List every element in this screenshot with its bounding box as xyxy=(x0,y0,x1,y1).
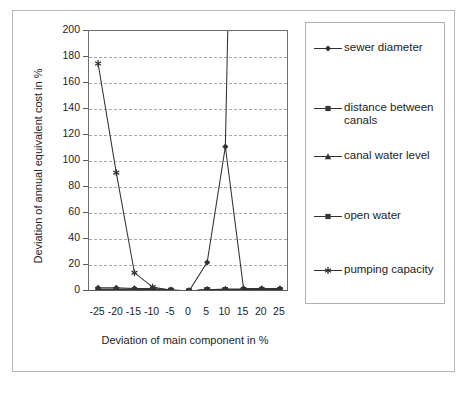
legend-marker xyxy=(314,210,342,224)
square-icon xyxy=(314,210,342,224)
x-axis-tick-label: 25 xyxy=(264,305,294,317)
y-axis-tick xyxy=(83,290,88,291)
y-axis-tick-label: 160 xyxy=(40,76,80,86)
diamond-marker xyxy=(204,259,210,265)
y-axis-tick xyxy=(83,134,88,135)
y-axis-tick-label: 20 xyxy=(40,258,80,268)
series-pumping-capacity xyxy=(95,60,283,290)
y-axis-tick xyxy=(83,238,88,239)
legend-label: canal water level xyxy=(342,149,430,162)
series-line xyxy=(98,147,280,290)
figure-container: Deviation of annual equivalent cost in %… xyxy=(0,0,467,401)
triangle-icon xyxy=(314,150,342,164)
chart-legend: sewer diameterdistance between canalscan… xyxy=(305,22,445,304)
diamond-icon xyxy=(314,42,342,56)
y-axis-tick-label: 0 xyxy=(40,284,80,294)
y-axis-tick xyxy=(83,212,88,213)
y-axis-tick-label: 100 xyxy=(40,154,80,164)
triangle-marker xyxy=(325,153,332,159)
y-axis-tick-label: 200 xyxy=(40,24,80,34)
x-axis-tick-labels: -25-20-15-10-50510152025 xyxy=(88,305,288,319)
legend-marker xyxy=(314,264,342,278)
y-axis-tick xyxy=(83,30,88,31)
y-axis-tick xyxy=(83,160,88,161)
legend-label: open water xyxy=(342,209,401,222)
x-axis-line xyxy=(88,290,288,291)
legend-label: sewer diameter xyxy=(342,41,423,54)
asterisk-icon xyxy=(314,264,342,278)
y-axis-tick-label: 80 xyxy=(40,180,80,190)
y-axis-tick-label: 60 xyxy=(40,206,80,216)
series-line xyxy=(98,64,280,291)
legend-label: pumping capacity xyxy=(342,263,434,276)
legend-item-distance-between-canals[interactable]: distance between canals xyxy=(314,101,442,127)
legend-item-pumping-capacity[interactable]: pumping capacity xyxy=(314,263,442,278)
square-marker xyxy=(325,214,330,219)
diamond-marker xyxy=(325,45,331,51)
diamond-marker xyxy=(222,144,228,150)
y-axis-tick xyxy=(83,186,88,187)
legend-marker xyxy=(314,150,342,164)
asterisk-marker xyxy=(325,267,331,274)
y-axis-tick xyxy=(83,82,88,83)
legend-item-canal-water-level[interactable]: canal water level xyxy=(314,149,442,164)
y-axis-tick xyxy=(83,264,88,265)
legend-item-open-water[interactable]: open water xyxy=(314,209,442,224)
asterisk-marker xyxy=(131,269,137,276)
series-layer xyxy=(89,31,288,290)
legend-marker xyxy=(314,42,342,56)
y-axis-tick-label: 180 xyxy=(40,50,80,60)
y-axis-tick-label: 120 xyxy=(40,128,80,138)
asterisk-marker xyxy=(95,60,101,67)
series-sewer-diameter xyxy=(95,30,283,290)
asterisk-marker xyxy=(113,169,119,176)
y-axis-tick xyxy=(83,56,88,57)
y-axis-tick-label: 40 xyxy=(40,232,80,242)
y-axis-tick-label: 140 xyxy=(40,102,80,112)
series-offchart-segment xyxy=(225,30,228,147)
legend-item-sewer-diameter[interactable]: sewer diameter xyxy=(314,41,442,56)
legend-marker xyxy=(314,102,342,116)
y-axis-tick xyxy=(83,108,88,109)
square-icon xyxy=(314,102,342,116)
legend-label: distance between canals xyxy=(342,101,442,127)
plot-area xyxy=(88,30,288,290)
square-marker xyxy=(325,106,330,111)
x-axis-title: Deviation of main component in % xyxy=(40,334,330,346)
